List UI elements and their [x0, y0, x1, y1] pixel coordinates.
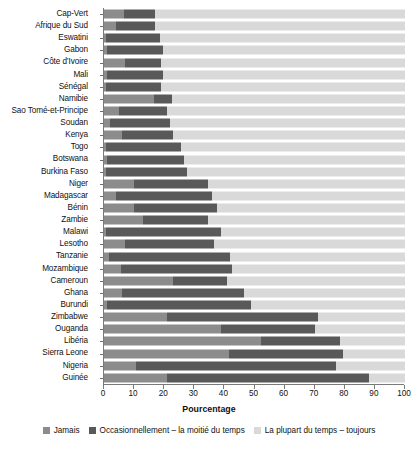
bar-segment-occasionnellement — [261, 337, 341, 346]
bar-segment-jamais — [104, 361, 136, 370]
category-tick — [97, 311, 103, 323]
bar-segment-jamais — [104, 216, 143, 225]
bar-segment-occasionnellement — [136, 361, 336, 370]
x-tick-label: 60 — [279, 389, 288, 398]
bar-segment-plupart-du-temps — [230, 252, 405, 261]
bar-row — [104, 226, 405, 238]
category-label: Cameroun — [0, 275, 92, 287]
legend-label: Occasionnellement – la moitié du temps — [100, 426, 245, 435]
legend-item[interactable]: Jamais — [43, 426, 80, 435]
bar-row — [104, 154, 405, 166]
bar-segment-plupart-du-temps — [227, 276, 405, 285]
category-label: Eswatini — [0, 32, 92, 44]
x-tick-label: 100 — [397, 389, 411, 398]
category-label: Libéria — [0, 335, 92, 347]
bar-segment-jamais — [104, 337, 261, 346]
plot-area — [103, 8, 405, 384]
category-label: Lesotho — [0, 238, 92, 250]
x-tick-label: 10 — [129, 389, 138, 398]
bar-segment-occasionnellement — [122, 288, 244, 297]
bar-segment-plupart-du-temps — [155, 22, 405, 31]
bar-row — [104, 335, 405, 347]
bar-segment-occasionnellement — [125, 58, 161, 67]
category-label: Namibie — [0, 93, 92, 105]
bar-segment-jamais — [104, 325, 221, 334]
x-tick-label: 30 — [189, 389, 198, 398]
category-label: Nigeria — [0, 360, 92, 372]
bar-row — [104, 44, 405, 56]
stacked-bar — [104, 143, 405, 152]
category-label: Ghana — [0, 287, 92, 299]
bar-segment-occasionnellement — [173, 276, 227, 285]
category-label: Cap-Vert — [0, 8, 92, 20]
bar-segment-occasionnellement — [106, 228, 222, 237]
bar-segment-plupart-du-temps — [161, 58, 405, 67]
bar-segment-plupart-du-temps — [369, 373, 405, 382]
stacked-bar — [104, 167, 405, 176]
bar-segment-jamais — [104, 131, 122, 140]
x-tick-label: 50 — [249, 389, 258, 398]
bar-segment-occasionnellement — [106, 167, 187, 176]
stacked-bar — [104, 264, 405, 273]
category-label: Bénin — [0, 202, 92, 214]
legend-item[interactable]: Occasionnellement – la moitié du temps — [89, 426, 245, 435]
stacked-bar — [104, 70, 405, 79]
bar-segment-occasionnellement — [134, 179, 208, 188]
category-tick — [97, 129, 103, 141]
x-tick-label: 90 — [369, 389, 378, 398]
bar-rows — [104, 8, 405, 384]
category-label: Botswana — [0, 154, 92, 166]
legend-label: Jamais — [54, 426, 80, 435]
category-tick — [97, 238, 103, 250]
category-tick — [97, 69, 103, 81]
bar-segment-plupart-du-temps — [170, 119, 405, 128]
category-tick — [97, 299, 103, 311]
stacked-bar — [104, 46, 405, 55]
x-axis-title: Pourcentage — [0, 404, 418, 414]
bar-segment-jamais — [104, 313, 167, 322]
legend-item[interactable]: La plupart du temps – toujours — [254, 426, 376, 435]
bar-row — [104, 32, 405, 44]
bar-segment-jamais — [104, 107, 119, 116]
bar-segment-plupart-du-temps — [336, 361, 405, 370]
bar-segment-plupart-du-temps — [181, 143, 405, 152]
bar-segment-jamais — [104, 22, 116, 31]
bar-segment-occasionnellement — [134, 204, 217, 213]
category-tick — [97, 372, 103, 384]
bar-segment-jamais — [104, 240, 125, 249]
stacked-bar — [104, 119, 405, 128]
bar-segment-plupart-du-temps — [208, 216, 405, 225]
stacked-bar — [104, 349, 405, 358]
bar-segment-occasionnellement — [107, 70, 163, 79]
bar-row — [104, 202, 405, 214]
bar-segment-jamais — [104, 204, 134, 213]
bar-segment-occasionnellement — [107, 46, 163, 55]
bar-segment-jamais — [104, 349, 229, 358]
bar-segment-plupart-du-temps — [315, 325, 405, 334]
plot-wrapper: Cap-VertAfrique du SudEswatiniGabonCôte … — [0, 0, 418, 395]
bar-segment-plupart-du-temps — [161, 82, 405, 91]
category-tick — [97, 323, 103, 335]
bar-segment-plupart-du-temps — [232, 264, 405, 273]
category-tick — [97, 335, 103, 347]
bar-segment-plupart-du-temps — [187, 167, 405, 176]
stacked-bar — [104, 313, 405, 322]
x-tick-label: 70 — [309, 389, 318, 398]
category-tick — [97, 287, 103, 299]
stacked-bar — [104, 191, 405, 200]
bar-row — [104, 190, 405, 202]
category-tick — [97, 8, 103, 20]
bar-segment-occasionnellement — [121, 264, 232, 273]
bar-segment-jamais — [104, 179, 134, 188]
bar-row — [104, 8, 405, 20]
bar-row — [104, 20, 405, 32]
category-label: Gabon — [0, 44, 92, 56]
stacked-bar — [104, 131, 405, 140]
category-label: Ouganda — [0, 323, 92, 335]
category-tick — [97, 154, 103, 166]
bar-segment-plupart-du-temps — [221, 228, 405, 237]
category-tick — [97, 117, 103, 129]
stacked-bar — [104, 325, 405, 334]
bar-segment-occasionnellement — [106, 143, 181, 152]
bar-row — [104, 129, 405, 141]
